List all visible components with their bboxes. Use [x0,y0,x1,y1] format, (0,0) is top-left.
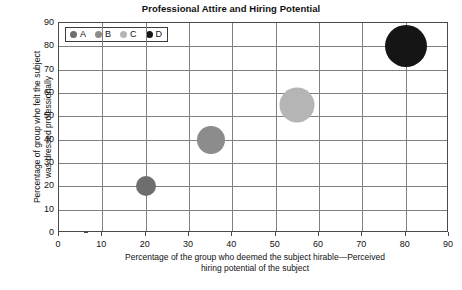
x-tick-mark [361,232,362,236]
x-tick-label: 40 [226,240,236,249]
x-axis-title-line1: Percentage of the group who deemed the s… [125,252,385,262]
x-tick-mark [405,232,406,236]
y-tick-label: 80 [32,41,54,50]
y-axis-ticks: 0102030405060708090 [30,22,54,232]
legend-item-d[interactable]: D [146,30,163,39]
x-tick-label: 50 [270,240,280,249]
y-tick-label: 60 [32,88,54,97]
y-tick-label: 30 [32,158,54,167]
x-tick-label: 80 [400,240,410,249]
gridline-horizontal [59,93,447,94]
x-tick-mark [275,232,276,236]
legend-swatch-a-icon [70,31,77,38]
y-tick-label: 0 [32,228,54,237]
y-tick-label: 20 [32,181,54,190]
legend-swatch-c-icon [120,31,127,38]
x-tick-label: 30 [183,240,193,249]
legend-label-d: D [156,30,163,39]
x-axis-title: Percentage of the group who deemed the s… [58,252,452,275]
gridline-vertical [146,23,147,231]
gridline-horizontal [59,116,447,117]
gridline-horizontal [59,186,447,187]
x-tick-label: 0 [55,240,60,249]
x-tick-label: 10 [96,240,106,249]
x-tick-mark [101,232,102,236]
legend-label-c: C [130,30,137,39]
data-bubble-d[interactable] [385,25,427,67]
gridline-vertical [276,23,277,231]
y-tick-label: 50 [32,111,54,120]
x-tick-mark [145,232,146,236]
y-tick-label: 90 [32,18,54,27]
gridline-horizontal [59,210,447,211]
y-tick-label: 70 [32,64,54,73]
gridline-vertical [189,23,190,231]
x-tick-mark [188,232,189,236]
plot-area: A B C D [58,22,448,232]
data-bubble-c[interactable] [280,87,315,122]
x-tick-label: 90 [443,240,453,249]
x-tick-label: 20 [140,240,150,249]
y-tick-label: 10 [32,204,54,213]
x-tick-mark [58,232,59,236]
x-axis-title-line2: hiring potential of the subject [201,263,309,273]
data-bubble-a[interactable] [136,176,156,196]
x-tick-label: 70 [356,240,366,249]
gridline-vertical [362,23,363,231]
gridline-horizontal [59,70,447,71]
legend: A B C D [65,27,168,42]
legend-label-b: B [105,30,111,39]
x-tick-mark [318,232,319,236]
legend-item-a[interactable]: A [70,30,86,39]
x-tick-mark [448,232,449,236]
x-axis-ticks: 0102030405060708090 [58,232,448,254]
y-tick-label: 40 [32,134,54,143]
gridline-horizontal [59,163,447,164]
chart-title: Professional Attire and Hiring Potential [0,3,462,14]
gridline-vertical [319,23,320,231]
x-tick-label: 60 [313,240,323,249]
gridline-horizontal [59,140,447,141]
bubble-chart: Professional Attire and Hiring Potential… [0,0,462,290]
legend-swatch-b-icon [95,31,102,38]
data-bubble-b[interactable] [197,126,225,154]
gridline-vertical [102,23,103,231]
legend-label-a: A [80,30,86,39]
legend-item-c[interactable]: C [120,30,137,39]
x-tick-mark [231,232,232,236]
gridline-vertical [232,23,233,231]
